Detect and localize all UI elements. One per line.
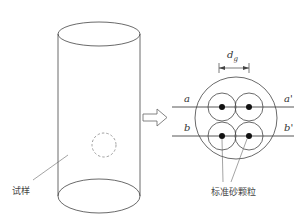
dashed-region-circle (92, 133, 116, 157)
line-label-b-prime: b' (284, 122, 293, 133)
cylinder-top-ellipse (58, 22, 140, 46)
specimen-label: 试样 (12, 184, 30, 197)
diagram-canvas (0, 0, 305, 224)
particle-dot-top-left (219, 104, 225, 110)
dimension-label-subscript: g (233, 55, 237, 63)
particle-dot-bottom-left (219, 133, 225, 139)
specimen-leader-line (33, 155, 68, 180)
hollow-arrow-icon (143, 109, 167, 126)
particles-label: 标准砂颗粒 (211, 185, 256, 198)
line-label-a: a (184, 93, 190, 104)
specimen-cylinder (58, 22, 140, 213)
dimension-marker (219, 63, 249, 73)
particle-dot-bottom-right (246, 133, 252, 139)
line-label-a-prime: a' (284, 93, 293, 104)
cross-section (172, 77, 294, 159)
dimension-label: dg (227, 49, 238, 63)
cylinder-bottom-ellipse (58, 179, 140, 213)
particles-leader-lines (222, 139, 247, 182)
line-label-b: b (184, 122, 190, 133)
outer-section-circle (195, 77, 277, 159)
particle-dot-top-right (246, 104, 252, 110)
